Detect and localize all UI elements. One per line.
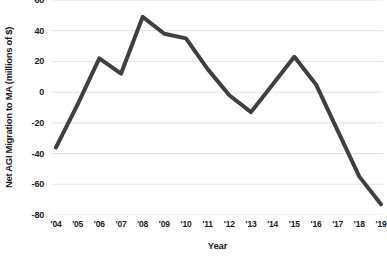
y-axis-tick-label: -20 bbox=[32, 118, 44, 128]
y-axis-tick-label: -80 bbox=[32, 210, 44, 220]
y-axis-tick-label: 0 bbox=[39, 87, 44, 97]
x-axis-tick-label: '05 bbox=[72, 219, 83, 229]
x-axis-tick-label: '08 bbox=[137, 219, 148, 229]
plot-area bbox=[52, 0, 383, 215]
x-axis-tick-label: '10 bbox=[181, 219, 192, 229]
y-axis-tick-label: 20 bbox=[34, 56, 44, 66]
data-line-series-1 bbox=[56, 17, 381, 204]
x-axis-tick-label: '19 bbox=[376, 219, 387, 229]
y-axis-tick-labels: 6040200-20-40-60-80 bbox=[18, 0, 48, 215]
plot-svg bbox=[52, 0, 383, 215]
x-axis-tick-label: '11 bbox=[202, 219, 212, 229]
y-axis-tick-label: -60 bbox=[32, 179, 44, 189]
x-axis-tick-label: '18 bbox=[354, 219, 365, 229]
x-axis-tick-label: '12 bbox=[224, 219, 235, 229]
x-axis-tick-label: '15 bbox=[289, 219, 300, 229]
gridlines bbox=[52, 0, 383, 215]
x-axis-tick-labels: '04'05'06'07'08'09'10'11'12'13'14'15'16'… bbox=[52, 215, 383, 237]
x-axis-tick-label: '07 bbox=[116, 219, 127, 229]
y-axis-tick-label: 40 bbox=[34, 26, 44, 36]
y-axis-tick-label: -40 bbox=[32, 149, 44, 159]
x-axis-tick-label: '14 bbox=[267, 219, 278, 229]
x-axis-tick-label: '17 bbox=[332, 219, 343, 229]
y-axis-title: Net AGI Migration to MA (millions of $) bbox=[0, 0, 18, 215]
chart-container: Net AGI Migration to MA (millions of $) … bbox=[0, 0, 387, 275]
x-axis-tick-label: '04 bbox=[51, 219, 62, 229]
x-axis-tick-label: '09 bbox=[159, 219, 170, 229]
x-axis-tick-label: '16 bbox=[311, 219, 322, 229]
y-axis-tick-label: 60 bbox=[34, 0, 44, 5]
x-axis-tick-label: '13 bbox=[246, 219, 257, 229]
y-axis-title-text: Net AGI Migration to MA (millions of $) bbox=[4, 27, 15, 188]
x-axis-tick-label: '06 bbox=[94, 219, 105, 229]
x-axis-title: Year bbox=[52, 240, 383, 251]
